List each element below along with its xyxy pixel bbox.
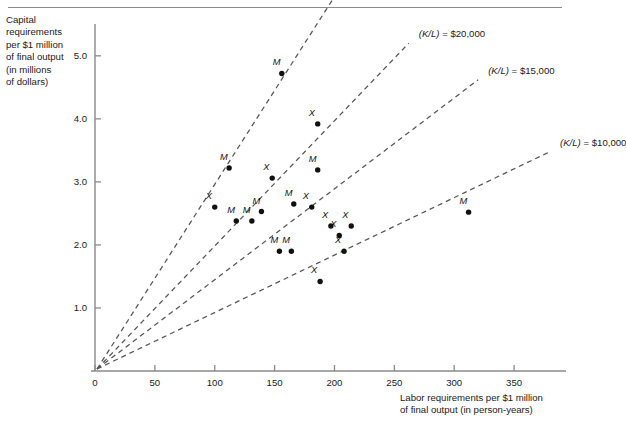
isoquant-ratio-value: = $20,000 <box>440 28 486 39</box>
isoquant-ray-label: (K/L) = $20,000 <box>419 28 485 39</box>
data-point-marker <box>270 175 275 180</box>
x-tick-label: 200 <box>319 377 349 388</box>
x-tick-label: 350 <box>499 377 529 388</box>
isoquant-ray <box>97 43 409 369</box>
isoquant-rays-group <box>97 0 550 369</box>
x-tick-label: 250 <box>379 377 409 388</box>
isoquant-ray-label: (K/L) = $15,000 <box>488 65 554 76</box>
isoquant-ray <box>97 80 478 369</box>
isoquant-ratio-symbol: (K/L) <box>560 137 581 148</box>
data-point-marker <box>277 249 282 254</box>
isoquant-ray <box>97 0 332 369</box>
data-point-marker <box>212 204 217 209</box>
data-point-marker <box>291 201 296 206</box>
x-tick-label: 300 <box>439 377 469 388</box>
data-point-label: X <box>263 162 269 172</box>
y-tick-label: 5.0 <box>59 50 87 61</box>
data-point-marker <box>226 165 231 170</box>
data-point-marker <box>349 223 354 228</box>
x-tick-label: 150 <box>260 377 290 388</box>
data-point-marker <box>249 218 254 223</box>
y-tick-label: 2.0 <box>59 239 87 250</box>
isoquant-ray-label: (K/L) = $10,000 <box>560 137 626 148</box>
isoquant-ray <box>97 152 550 369</box>
data-point-label: M <box>285 188 293 198</box>
data-point-label: M <box>220 152 228 162</box>
x-tick-label: 50 <box>140 377 170 388</box>
isoquant-ratio-value: = $10,000 <box>581 137 626 148</box>
data-point-label: X <box>322 210 328 220</box>
data-point-marker <box>315 121 320 126</box>
data-point-marker <box>289 249 294 254</box>
data-point-marker <box>317 279 322 284</box>
data-point-marker <box>279 71 284 76</box>
data-point-marker <box>466 209 471 214</box>
data-point-label: X <box>335 235 341 245</box>
data-point-marker <box>259 209 264 214</box>
data-point-label: M <box>460 196 468 206</box>
data-point-marker <box>341 249 346 254</box>
y-tick-label: 4.0 <box>59 113 87 124</box>
data-point-marker <box>234 218 239 223</box>
data-point-label: M <box>227 205 235 215</box>
data-point-label: M <box>243 205 251 215</box>
data-point-label: X <box>311 265 317 275</box>
data-point-label: M <box>273 57 281 67</box>
x-tick-label: 100 <box>200 377 230 388</box>
y-tick-label: 1.0 <box>59 302 87 313</box>
data-point-label: M <box>282 235 290 245</box>
x-tick-label: 0 <box>80 377 110 388</box>
isoquant-ratio-value: = $15,000 <box>509 65 555 76</box>
y-tick-label: 3.0 <box>59 176 87 187</box>
data-point-label: X <box>309 108 315 118</box>
data-point-label: M <box>252 196 260 206</box>
data-point-label: M <box>270 235 278 245</box>
data-point-marker <box>315 167 320 172</box>
data-point-label: X <box>303 191 309 201</box>
data-point-label: X <box>330 219 336 229</box>
data-point-label: X <box>342 210 348 220</box>
data-point-label: M <box>309 154 317 164</box>
data-point-label: X <box>206 191 212 201</box>
data-point-marker <box>309 204 314 209</box>
isoquant-ratio-symbol: (K/L) <box>419 28 440 39</box>
isoquant-ratio-symbol: (K/L) <box>488 65 509 76</box>
